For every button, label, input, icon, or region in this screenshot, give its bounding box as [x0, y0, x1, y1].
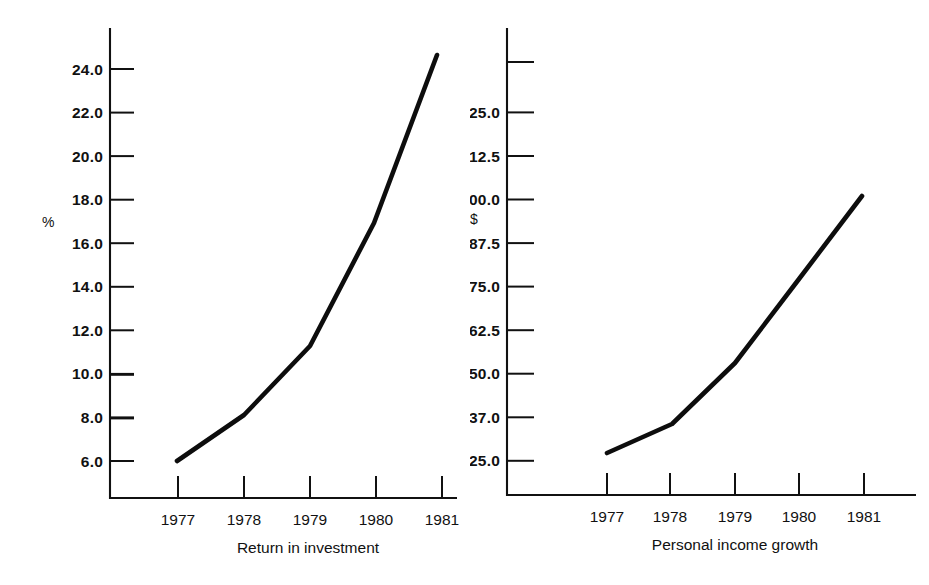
left-chart-xtick-marks: [178, 476, 442, 498]
left-chart-ytick-label-0: 24.0: [72, 61, 103, 78]
left-chart-xtick-label-4: 1981: [425, 511, 459, 528]
left-chart-xtick-label-3: 1980: [359, 511, 394, 528]
right-chart-xtick-label-4: 1981: [847, 508, 881, 525]
left-chart-ytick-label-9: 6.0: [81, 453, 103, 470]
right-chart-xtick-marks: [607, 473, 864, 495]
right-chart-xtick-label-0: 1977: [590, 508, 624, 525]
right-chart-xtick-label-1: 1978: [653, 508, 687, 525]
two-panel-line-chart-figure: 24.0 22.0 20.0 18.0 16.0 14.0 12.0 10.0 …: [0, 0, 929, 585]
right-chart-ytick-label-1: 112.5: [470, 148, 500, 165]
right-chart-ytick-label-5: 62.5: [470, 322, 500, 339]
right-chart-xtick-label-3: 1980: [782, 508, 817, 525]
left-chart-ytick-label-7: 10.0: [72, 365, 103, 382]
left-chart-caption: Return in investment: [237, 539, 380, 556]
right-chart-ytick-label-7: 37.0: [470, 409, 500, 426]
right-chart-data-line: [607, 196, 862, 453]
right-chart-xtick-label-2: 1979: [718, 508, 752, 525]
right-chart-ytick-label-0: 125.0: [470, 104, 500, 121]
right-chart-ytick-label-6: 50.0: [470, 365, 500, 382]
right-chart-ytick-label-8: 25.0: [470, 452, 500, 469]
right-chart-personal-income-growth: 125.0 112.5 100.0 87.5 75.0 62.5 50.0 37…: [470, 0, 929, 585]
left-chart-ytick-label-3: 18.0: [72, 191, 103, 208]
right-chart-ytick-marks: [507, 112, 534, 460]
right-chart-ytick-label-3: 87.5: [470, 235, 500, 252]
left-chart-ytick-label-8: 8.0: [81, 409, 103, 426]
right-chart-ytick-label-2: 100.0: [470, 191, 500, 208]
left-chart-data-line: [177, 55, 437, 461]
left-chart-ytick-label-6: 12.0: [72, 322, 103, 339]
left-chart-ytick-label-4: 16.0: [72, 235, 103, 252]
left-chart-ytick-label-5: 14.0: [72, 278, 103, 295]
left-chart-xtick-label-0: 1977: [161, 511, 195, 528]
left-chart-xtick-label-2: 1979: [293, 511, 327, 528]
right-chart-caption: Personal income growth: [652, 536, 818, 553]
left-chart-ytick-label-2: 20.0: [72, 148, 103, 165]
right-chart-y-axis-unit-label: $: [470, 211, 478, 227]
left-chart-y-axis-unit-label: %: [42, 214, 54, 230]
left-chart-ytick-marks: [110, 69, 134, 461]
left-chart-return-in-investment: 24.0 22.0 20.0 18.0 16.0 14.0 12.0 10.0 …: [0, 0, 470, 585]
right-chart-ytick-label-4: 75.0: [470, 278, 500, 295]
left-chart-xtick-label-1: 1978: [227, 511, 261, 528]
left-chart-ytick-label-1: 22.0: [72, 104, 103, 121]
